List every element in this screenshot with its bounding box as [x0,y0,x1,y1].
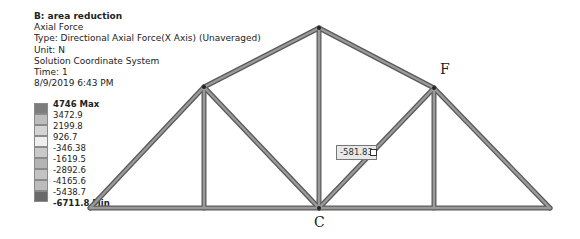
probe-pin-icon[interactable] [370,149,377,156]
node-right-panel [432,86,436,90]
node-label-f: F [440,61,450,77]
node-center-bottom [317,206,321,210]
truss-diagram [0,0,580,239]
node-left-panel [202,85,206,89]
node-label-c: C [314,214,325,230]
node-apex [317,26,321,30]
